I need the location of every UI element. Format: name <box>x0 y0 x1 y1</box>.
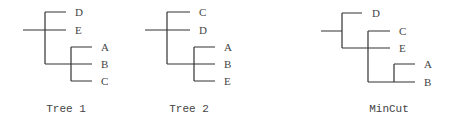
tree-1: D E A B C Tree 1 <box>23 6 109 115</box>
mincut-leaf-1: D <box>372 7 380 19</box>
tree-comparison-figure: D E A B C Tree 1 C D A B E Tree 2 D C E … <box>0 0 453 123</box>
tree-2: C D A B E Tree 2 <box>145 6 232 115</box>
tree-1-leaf-2: E <box>75 24 82 36</box>
mincut-tree: D C E A B MinCut <box>321 7 432 115</box>
tree-1-leaf-3: A <box>101 41 109 53</box>
tree-1-edges <box>23 12 92 81</box>
tree-2-leaf-5: E <box>224 75 231 87</box>
tree-2-edges <box>145 12 215 81</box>
tree-1-leaf-4: B <box>101 58 108 70</box>
tree-1-leaf-5: C <box>101 75 108 87</box>
tree-1-leaf-1: D <box>75 6 83 18</box>
mincut-leaf-2: C <box>399 25 406 37</box>
tree-2-leaf-3: A <box>224 41 232 53</box>
mincut-leaf-3: E <box>399 42 406 54</box>
mincut-leaf-4: A <box>424 58 432 70</box>
tree-1-caption: Tree 1 <box>46 103 86 115</box>
tree-2-leaf-1: C <box>199 6 206 18</box>
tree-2-leaf-4: B <box>224 58 231 70</box>
tree-2-leaf-2: D <box>199 24 207 36</box>
mincut-caption: MinCut <box>369 103 409 115</box>
tree-2-caption: Tree 2 <box>169 103 209 115</box>
mincut-leaf-5: B <box>424 76 431 88</box>
